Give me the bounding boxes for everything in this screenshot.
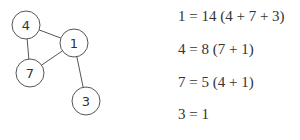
node-7: 7 [16, 59, 44, 87]
edge-7-1 [42, 51, 63, 65]
node-label: 4 [22, 18, 30, 33]
node-4: 4 [12, 11, 40, 39]
node-3: 3 [72, 87, 100, 115]
graph-diagram: 4173 [0, 0, 150, 140]
equation-node-4: 4 = 8 (7 + 1) [178, 41, 254, 58]
equation-node-7: 7 = 5 (4 + 1) [178, 74, 254, 91]
node-1: 1 [60, 29, 88, 57]
graph-nodes: 4173 [12, 11, 100, 115]
edge-4-7 [27, 39, 29, 59]
edge-1-3 [77, 57, 83, 88]
node-label: 3 [82, 94, 90, 109]
edge-4-1 [39, 30, 61, 38]
node-label: 1 [70, 36, 78, 51]
equation-node-3: 3 = 1 [178, 106, 209, 123]
equation-node-1: 1 = 14 (4 + 7 + 3) [178, 8, 285, 25]
node-label: 7 [26, 66, 34, 81]
